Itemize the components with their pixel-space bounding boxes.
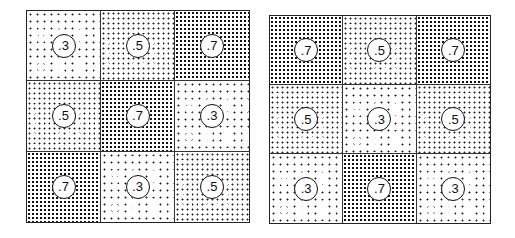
density-circle: .7	[441, 38, 465, 62]
density-circle: .5	[441, 107, 465, 131]
density-circle: .5	[294, 107, 318, 131]
left-grid: .3 .5 .7 .5 .7 .3 .7 .3 .5	[26, 10, 250, 223]
density-circle: .5	[367, 38, 391, 62]
grid-cell: .5	[343, 16, 416, 85]
density-circle: .3	[200, 104, 224, 128]
right-grid: .7 .5 .7 .5 .3 .5 .3 .7 .3	[269, 15, 491, 224]
grid-cell: .5	[417, 85, 490, 154]
density-circle: .7	[126, 104, 150, 128]
density-circle: .7	[294, 38, 318, 62]
grid-cell: .5	[270, 85, 343, 154]
density-circle: .7	[52, 175, 76, 199]
density-circle: .3	[52, 34, 76, 58]
density-circle: .3	[367, 107, 391, 131]
grid-cell: .7	[270, 16, 343, 85]
grid-cell: .5	[27, 81, 101, 151]
density-circle: .3	[126, 175, 150, 199]
grid-cell: .5	[101, 11, 175, 81]
grid-cell: .7	[417, 16, 490, 85]
density-circle: .5	[200, 175, 224, 199]
grid-cell: .3	[27, 11, 101, 81]
grid-cell: .7	[27, 152, 101, 222]
density-circle: .5	[126, 34, 150, 58]
grid-cell: .3	[343, 85, 416, 154]
grid-cell: .5	[175, 152, 249, 222]
grid-cell: .3	[101, 152, 175, 222]
grid-cell: .3	[270, 154, 343, 223]
grid-cell: .3	[175, 81, 249, 151]
density-circle: .7	[367, 177, 391, 201]
grid-cell: .3	[417, 154, 490, 223]
grid-cell: .7	[101, 81, 175, 151]
density-circle: .3	[294, 177, 318, 201]
grid-cell: .7	[343, 154, 416, 223]
grid-cell: .7	[175, 11, 249, 81]
density-circle: .7	[200, 34, 224, 58]
density-circle: .3	[441, 177, 465, 201]
density-circle: .5	[52, 104, 76, 128]
